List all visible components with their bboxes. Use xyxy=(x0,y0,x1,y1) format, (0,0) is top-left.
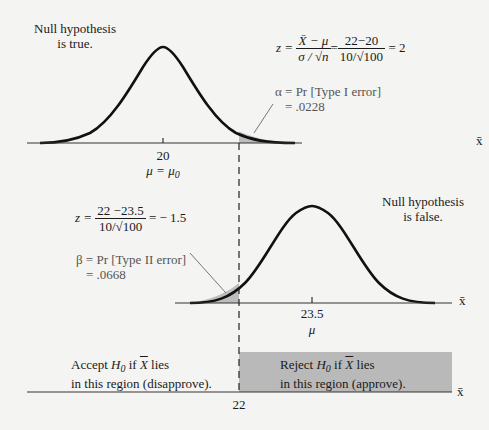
null-true-title-line1: Null hypothesis xyxy=(34,21,116,36)
ten-over: 10/ xyxy=(340,49,357,64)
z-fraction-1: X̄ − μ σ / √n xyxy=(296,34,330,64)
z-fraction-denominator: 10/√100 xyxy=(95,219,145,234)
type1-z-formula: z = X̄ − μ σ / √n = 22−20 10/√100 = 2 xyxy=(276,34,405,64)
null-false-title-line1: Null hypothesis xyxy=(368,194,478,209)
bottom-tick-value: 23.5 xyxy=(292,306,332,321)
sqrt-100: √100 xyxy=(116,218,143,234)
if-word: if xyxy=(331,357,345,372)
top-tick-label: μ = μ0 xyxy=(138,163,188,182)
mu0-subscript: 0 xyxy=(175,169,180,180)
alpha-value: = .0228 xyxy=(275,99,381,114)
reject-region-label: Reject H0 if X lies in this region (appr… xyxy=(280,357,406,391)
beta-annotation: β = Pr [Type II error] = .0668 xyxy=(76,252,186,282)
top-tick-value: 20 xyxy=(143,148,183,163)
lies-word: lies xyxy=(148,357,169,372)
z-result: = 2 xyxy=(388,40,405,55)
lies-word: lies xyxy=(353,357,374,372)
reject-line1: Reject H0 if X lies xyxy=(280,357,406,376)
null-true-title-line2: is true. xyxy=(34,36,116,51)
z-result: = − 1.5 xyxy=(149,210,186,225)
h-symbol: H xyxy=(316,357,325,372)
z-fraction-1-denominator: σ / √n xyxy=(296,49,330,64)
beta-line1: β = Pr [Type II error] xyxy=(76,252,186,267)
bottom-tick-label: μ xyxy=(302,322,322,337)
mu-equals-mu0: μ = μ xyxy=(146,163,174,178)
if-word: if xyxy=(125,357,139,372)
critical-value-label: 22 xyxy=(224,397,254,412)
beta-value: = .0668 xyxy=(76,267,186,282)
top-axis-label: x̄ xyxy=(476,133,483,148)
z-fraction-2-denominator: 10/√100 xyxy=(338,49,385,64)
z-fraction-2-numerator: 22−20 xyxy=(338,34,385,49)
bottom-axis-label: x̄ xyxy=(459,293,466,308)
z-fraction-2: 22−20 10/√100 xyxy=(338,34,385,64)
ten-over: 10/ xyxy=(99,219,116,234)
null-false-title: Null hypothesis is false. xyxy=(368,194,478,224)
reject-word: Reject xyxy=(280,357,316,372)
sqrt-100: √100 xyxy=(356,48,383,64)
accept-line1: Accept H0 if X lies xyxy=(71,357,212,376)
reject-line2: in this region (approve). xyxy=(280,376,406,391)
sqrt-n: √n xyxy=(315,48,329,64)
accept-region-label: Accept H0 if X lies in this region (disa… xyxy=(71,357,212,391)
x-bar-symbol: X xyxy=(140,357,148,372)
alpha-line1: α = Pr [Type I error] xyxy=(275,84,381,99)
z-lhs: z = xyxy=(276,40,293,55)
accept-word: Accept xyxy=(71,357,111,372)
z-lhs: z = xyxy=(75,210,92,225)
null-true-title: Null hypothesis is true. xyxy=(34,21,116,51)
alpha-leader-line xyxy=(254,104,273,133)
z-fraction-numerator: 22 −23.5 xyxy=(95,204,145,219)
sigma-over: σ / xyxy=(298,49,315,64)
z-fraction: 22 −23.5 10/√100 xyxy=(95,204,145,234)
beta-leader-line xyxy=(190,253,226,293)
accept-line2: in this region (disapprove). xyxy=(71,376,212,391)
equals-sign: = xyxy=(331,40,338,55)
null-false-title-line2: is false. xyxy=(368,209,478,224)
alpha-annotation: α = Pr [Type I error] = .0228 xyxy=(275,84,381,114)
type2-z-formula: z = 22 −23.5 10/√100 = − 1.5 xyxy=(75,204,186,234)
z-fraction-1-numerator: X̄ − μ xyxy=(296,34,330,49)
decision-axis-label: x̄ xyxy=(457,384,464,399)
